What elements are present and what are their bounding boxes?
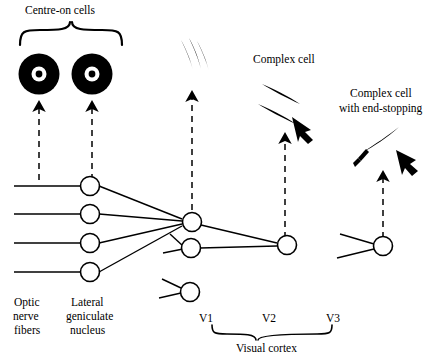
neuron-soma-icon	[181, 239, 201, 302]
label-lgn-line3: nucleus	[70, 324, 105, 337]
motion-arrow-icon	[396, 150, 418, 176]
centre-on-receptive-field-icon	[19, 54, 113, 95]
neuron-soma-icon	[81, 177, 100, 282]
label-complex-cell-end-stopping-line2: with end-stopping	[339, 102, 422, 115]
end-stopped-bar-icon	[353, 127, 399, 167]
neuron-soma-icon	[183, 213, 202, 232]
oriented-bars-complex-icon	[258, 84, 300, 124]
brace-icon	[20, 22, 122, 45]
v1-to-v2-projection-lines	[200, 225, 277, 248]
label-optic-line1: Optic	[14, 296, 40, 309]
lgn-to-v1-projection-lines	[99, 186, 182, 272]
oriented-bars-icon	[181, 38, 209, 71]
label-visual-cortex: Visual cortex	[236, 342, 297, 355]
label-lgn-line1: Lateral	[71, 296, 104, 309]
optic-nerve-fiber-lines	[14, 186, 80, 272]
label-v3: V3	[326, 312, 340, 325]
label-v2: V2	[262, 312, 276, 325]
v1-neuron-dendrites	[159, 234, 183, 298]
label-lgn-line2: geniculate	[66, 310, 113, 323]
label-optic-line2: nerve	[13, 310, 39, 323]
label-centre-on-cells: Centre-on cells	[25, 4, 95, 17]
neuron-soma-icon	[374, 237, 393, 256]
v3-neuron-dendrites	[337, 234, 374, 258]
label-complex-cell-end-stopping-line1: Complex cell	[350, 87, 412, 100]
label-complex-cell: Complex cell	[253, 53, 315, 66]
label-optic-line3: fibers	[14, 324, 40, 337]
motion-arrow-icon	[292, 117, 313, 144]
diagram-canvas: Centre-on cells Complex cell Complex cel…	[0, 0, 448, 364]
neuron-soma-icon	[278, 236, 297, 255]
brace-icon	[212, 325, 332, 340]
label-v1: V1	[199, 312, 213, 325]
